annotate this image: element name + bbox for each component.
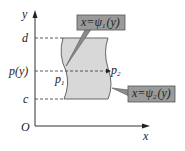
x-axis-label: x [142, 129, 149, 143]
y-axis-arrow [33, 10, 38, 18]
d-label: d [22, 31, 29, 45]
c-label: c [23, 92, 29, 106]
callout-2-pointer [112, 88, 129, 96]
y-axis-label: y [21, 7, 28, 21]
p1-label: p1 [54, 72, 65, 87]
x-axis-arrow [142, 124, 150, 129]
region [61, 38, 111, 99]
diagram-canvas: y x O d p(y) c p1 p2 x=ψ1(y) x=ψ2(y) [0, 0, 185, 151]
p2-label: p2 [110, 63, 121, 78]
origin-label: O [21, 120, 30, 134]
callout-2-text: x=ψ2(y) [131, 86, 171, 101]
py-label: p(y) [8, 64, 28, 78]
callout-1-text: x=ψ1(y) [80, 15, 120, 30]
